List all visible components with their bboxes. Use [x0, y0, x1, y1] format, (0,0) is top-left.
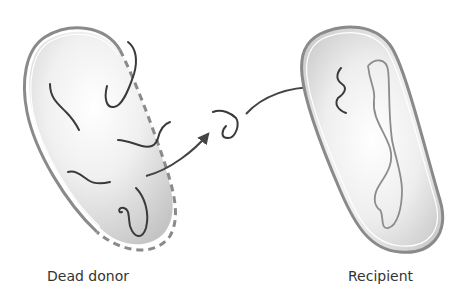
recipient-cell-body: [302, 27, 443, 252]
donor-label: Dead donor: [47, 268, 129, 284]
free-dna-fragment: [213, 111, 238, 138]
donor-cell: [24, 28, 175, 250]
transformation-diagram: [0, 0, 468, 297]
donor-cell-body: [29, 32, 172, 245]
recipient-cell: [302, 27, 443, 252]
recipient-label: Recipient: [348, 268, 413, 284]
